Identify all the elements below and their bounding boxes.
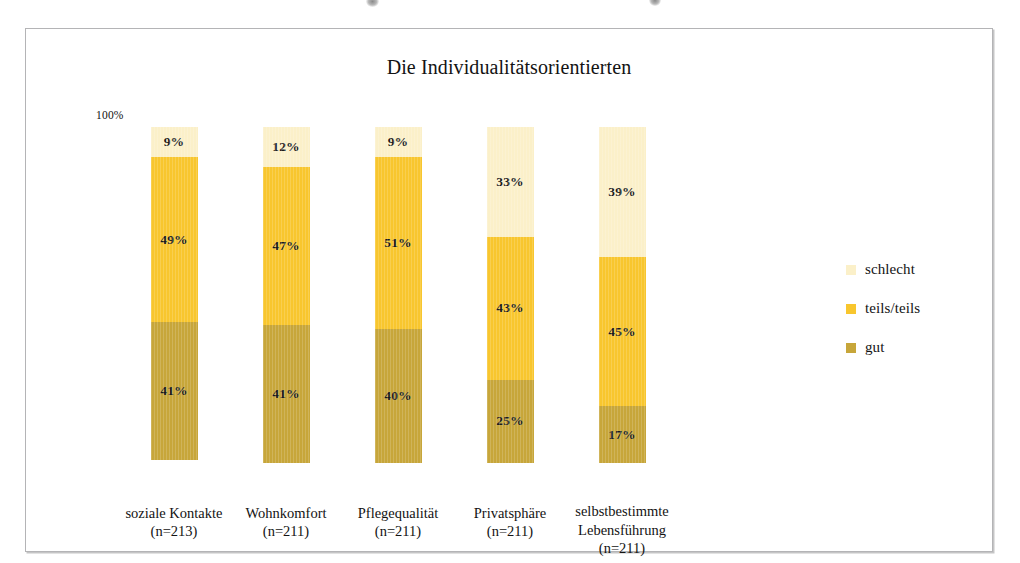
bar-segment-value-schlecht: 9% (388, 134, 408, 150)
legend-label-teils-teils: teils/teils (865, 300, 920, 317)
bar-segment-schlecht[interactable]: 33% (487, 127, 534, 237)
chart-figure-frame: Die Individualitätsorientierten 100% 9% … (25, 28, 993, 552)
category-label-line2: Lebensführung (547, 521, 697, 540)
bar-stack: 12% 47% 41% (263, 127, 310, 463)
bar-segment-schlecht[interactable]: 9% (375, 127, 422, 157)
bar-segment-value-teils-teils: 43% (496, 300, 523, 316)
category-label-line1: selbstbestimmte (575, 503, 668, 519)
legend-item-teils-teils[interactable]: teils/teils (846, 300, 920, 317)
bar-segment-gut[interactable]: 40% (375, 329, 422, 463)
bar-segment-gut[interactable]: 41% (151, 322, 198, 460)
legend-swatch-gut-icon (846, 343, 856, 353)
category-label-line1: Pflegequalität (358, 505, 439, 521)
legend-swatch-schlecht-icon (846, 265, 856, 275)
bar-segment-value-gut: 25% (496, 413, 523, 429)
bar-segment-gut[interactable]: 41% (263, 325, 310, 463)
category-label-line1: Privatsphäre (474, 505, 546, 521)
bar-segment-teils-teils[interactable]: 45% (599, 257, 646, 407)
bar-segment-value-teils-teils: 47% (272, 238, 299, 254)
bar-group-wohnkomfort[interactable]: 12% 47% 41% (230, 127, 342, 463)
legend-label-schlecht: schlecht (865, 261, 915, 278)
bar-segment-value-schlecht: 39% (608, 184, 635, 200)
bar-segment-schlecht[interactable]: 9% (151, 127, 198, 157)
bar-stack: 9% 51% 40% (375, 127, 422, 463)
category-label-selbstbestimmte-lebensfuehrung: selbstbestimmte Lebensführung (n=211) (547, 502, 697, 558)
bar-group-soziale-kontakte[interactable]: 9% 49% 41% (118, 127, 230, 463)
bar-segment-value-schlecht: 9% (164, 134, 184, 150)
bar-segment-teils-teils[interactable]: 47% (263, 167, 310, 325)
chart-legend: schlecht teils/teils gut (846, 261, 920, 356)
legend-label-gut: gut (865, 339, 884, 356)
bar-segment-teils-teils[interactable]: 49% (151, 157, 198, 322)
scan-artifact-speck-right (649, 0, 661, 6)
bar-group-privatsphaere[interactable]: 33% 43% 25% (454, 127, 566, 463)
bar-segment-teils-teils[interactable]: 51% (375, 157, 422, 328)
bar-segment-value-schlecht: 12% (272, 139, 299, 155)
bar-segment-value-gut: 41% (160, 383, 187, 399)
bar-segment-gut[interactable]: 25% (487, 380, 534, 463)
scan-artifact-speck-left (366, 0, 379, 7)
bar-group-pflegequalitaet[interactable]: 9% 51% 40% (342, 127, 454, 463)
bar-segment-value-gut: 17% (608, 427, 635, 443)
bar-segment-schlecht[interactable]: 12% (263, 127, 310, 167)
bar-stack: 9% 49% 41% (151, 127, 198, 463)
legend-item-schlecht[interactable]: schlecht (846, 261, 920, 278)
bar-segment-value-schlecht: 33% (496, 174, 523, 190)
legend-item-gut[interactable]: gut (846, 339, 920, 356)
legend-swatch-teils-teils-icon (846, 304, 856, 314)
bar-segment-gut[interactable]: 17% (599, 406, 646, 463)
bar-segment-teils-teils[interactable]: 43% (487, 237, 534, 380)
bar-segment-value-teils-teils: 49% (160, 232, 187, 248)
bar-stack: 39% 45% 17% (599, 127, 646, 463)
category-label-n: (n=211) (547, 539, 697, 558)
bar-stack: 33% 43% 25% (487, 127, 534, 463)
bar-segment-value-teils-teils: 51% (384, 235, 411, 251)
category-label-line1: Wohnkomfort (246, 505, 327, 521)
bar-group-selbstbestimmte-lebensfuehrung[interactable]: 39% 45% 17% (566, 127, 678, 463)
bar-segment-schlecht[interactable]: 39% (599, 127, 646, 257)
bar-segment-value-gut: 41% (272, 386, 299, 402)
bar-segment-value-teils-teils: 45% (608, 324, 635, 340)
bar-segment-value-gut: 40% (384, 388, 411, 404)
category-label-line1: soziale Kontakte (125, 505, 222, 521)
